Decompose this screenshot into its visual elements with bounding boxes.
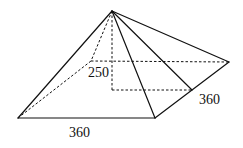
pyramid-drawing (0, 0, 243, 148)
height-label: 250 (88, 66, 109, 80)
front-base-label: 360 (69, 126, 90, 140)
hidden-edge-base-left (18, 61, 91, 118)
slant-height-line (112, 11, 192, 90)
side-base-label: 360 (199, 93, 220, 107)
hidden-edge-apex-back-left (91, 11, 112, 61)
pyramid-diagram: 250 360 360 (0, 0, 243, 148)
